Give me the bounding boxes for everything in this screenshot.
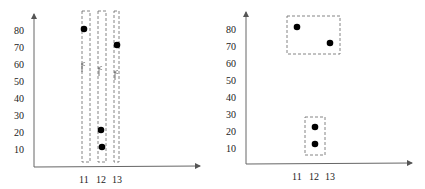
- strip-13: [114, 11, 119, 162]
- y-tick: 10: [14, 144, 24, 155]
- diagram: 80 70 60 50 40 30 20 10 11 12 13: [0, 0, 425, 189]
- vertical-strips: [82, 11, 119, 162]
- y-tick: 30: [14, 110, 24, 121]
- y-tick: 60: [14, 59, 24, 70]
- y-tick: 70: [226, 41, 236, 52]
- right-panel: 80 70 60 50 40 30 20 10 11 12 13: [226, 12, 412, 182]
- x-tick-labels: 11 12 13: [292, 171, 335, 182]
- y-tick: 10: [226, 143, 236, 154]
- x-tick: 13: [325, 171, 335, 182]
- x-tick: 12: [96, 174, 106, 185]
- y-tick-labels: 80 70 60 50 40 30 20 10: [14, 25, 24, 155]
- cluster-box-top: [287, 16, 340, 54]
- y-tick-labels: 80 70 60 50 40 30 20 10: [226, 24, 236, 154]
- point: [312, 124, 319, 131]
- x-tick: 13: [112, 174, 122, 185]
- x-axis: [246, 163, 412, 164]
- point: [294, 24, 301, 31]
- y-tick: 20: [226, 126, 236, 137]
- point: [312, 141, 319, 148]
- point: [98, 127, 105, 134]
- cluster-boxes: [287, 16, 340, 155]
- point: [99, 144, 106, 151]
- x-tick: 11: [79, 174, 89, 185]
- x-tick: 11: [292, 171, 302, 182]
- cluster-box-bottom: [305, 117, 325, 155]
- y-tick: 60: [226, 58, 236, 69]
- y-tick: 80: [14, 25, 24, 36]
- x-tick: 12: [309, 171, 319, 182]
- point: [81, 26, 88, 33]
- y-tick: 20: [14, 127, 24, 138]
- y-tick: 40: [226, 92, 236, 103]
- strip-11: [82, 11, 90, 162]
- y-tick: 50: [226, 75, 236, 86]
- y-tick: 80: [226, 24, 236, 35]
- y-tick: 40: [14, 93, 24, 104]
- y-tick: 30: [226, 109, 236, 120]
- y-tick: 70: [14, 42, 24, 53]
- x-tick-labels: 11 12 13: [79, 174, 122, 185]
- data-points: [294, 24, 334, 148]
- point: [114, 42, 121, 49]
- x-axis: [34, 166, 200, 167]
- left-panel: 80 70 60 50 40 30 20 10 11 12 13: [14, 11, 200, 185]
- y-tick: 50: [14, 76, 24, 87]
- strip-12: [98, 11, 106, 162]
- point: [327, 40, 334, 47]
